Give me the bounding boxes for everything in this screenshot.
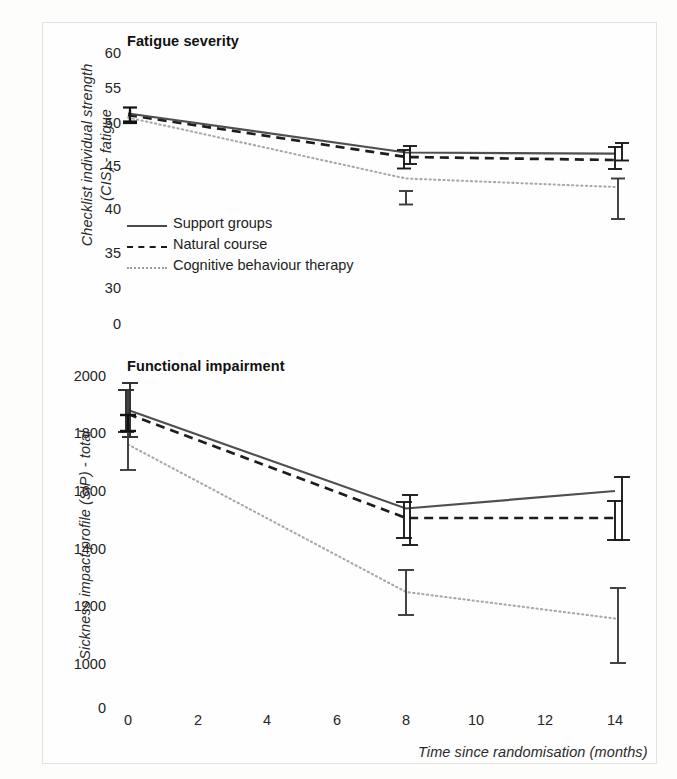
xtick-4: 4 [252,712,282,728]
chart2-series-natural-line [128,414,615,518]
chart2-errorbar-natural-14 [607,501,623,540]
chart2-errorbar-cbt-8 [398,570,414,615]
chart-functional-impairment: Functional impairment 2000 1800 1600 140… [0,0,677,779]
xtick-8: 8 [391,712,421,728]
figure-page: Checklist individual strength (CIS) - fa… [0,0,677,779]
xtick-10: 10 [461,712,491,728]
chart2-series-support-line [128,410,615,509]
chart2-errorbar-cbt-14 [610,588,626,663]
chart2-errorbar-support-14 [614,477,630,540]
xtick-0: 0 [113,712,143,728]
xtick-14: 14 [600,712,630,728]
xtick-12: 12 [530,712,560,728]
xtick-6: 6 [322,712,352,728]
xtick-2: 2 [183,712,213,728]
chart2-plot [0,0,677,779]
chart2-series-cbt-line [128,445,615,619]
